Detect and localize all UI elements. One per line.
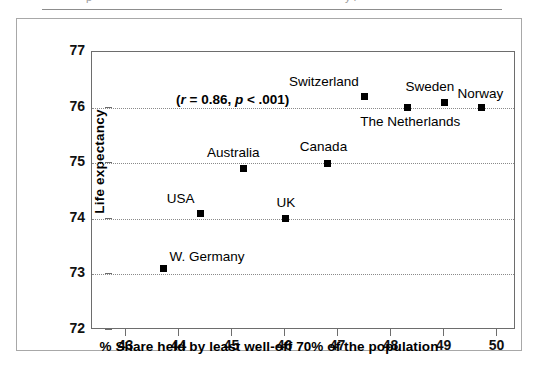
data-point-label: Sweden — [405, 79, 454, 94]
data-point-label: W. Germany — [170, 249, 245, 264]
data-point-marker — [324, 160, 331, 167]
data-point-label: UK — [276, 195, 295, 210]
x-tick-50 — [496, 329, 497, 336]
data-point-marker — [282, 215, 289, 222]
data-point-label: The Netherlands — [360, 114, 460, 129]
x-tick-44 — [178, 329, 179, 336]
data-point-marker — [404, 104, 411, 111]
x-tick-46 — [284, 329, 285, 336]
y-tick-label-77: 77 — [45, 42, 85, 58]
y-tick-label-75: 75 — [45, 153, 85, 169]
annotation-p-symbol: p — [235, 92, 243, 107]
figure-frame: Life expectancy 727374757677 W. GermanyU… — [16, 18, 522, 351]
data-point-marker — [441, 99, 448, 106]
x-tick-45 — [231, 329, 232, 336]
y-tick-label-72: 72 — [45, 320, 85, 336]
data-point-marker — [160, 265, 167, 272]
gridline-y-74 — [92, 219, 514, 220]
cropped-text-sliver: p y f — [0, 0, 541, 9]
data-point-label: USA — [167, 191, 195, 206]
text-fragment-left: p — [86, 0, 92, 3]
data-point-label: Canada — [300, 139, 347, 154]
y-tick-label-76: 76 — [45, 98, 85, 114]
data-point-label: Australia — [207, 145, 260, 160]
x-axis-title: % Share held by least well-off 70% of th… — [16, 339, 522, 354]
gridline-y-73 — [92, 274, 514, 275]
x-axis-ticks — [91, 329, 515, 337]
y-tick-label-73: 73 — [45, 264, 85, 280]
horizontal-rule — [42, 9, 502, 10]
data-point-label: Switzerland — [289, 74, 359, 89]
data-point-marker — [240, 165, 247, 172]
text-fragment-right: y f — [345, 0, 357, 3]
plot-area: W. GermanyUSAAustraliaUKCanadaSwitzerlan… — [91, 51, 515, 329]
x-tick-48 — [390, 329, 391, 336]
data-point-label: Norway — [458, 86, 504, 101]
gridline-y-75 — [92, 163, 514, 164]
x-tick-47 — [337, 329, 338, 336]
gridline-y-76 — [92, 108, 514, 109]
x-tick-43 — [125, 329, 126, 336]
annotation-p-value: < .001) — [243, 92, 289, 107]
data-point-marker — [197, 210, 204, 217]
y-axis-labels: 727374757677 — [37, 51, 85, 329]
data-point-marker — [478, 104, 485, 111]
x-tick-49 — [443, 329, 444, 336]
data-point-marker — [361, 93, 368, 100]
annotation-r-value: = 0.86, — [186, 92, 235, 107]
correlation-annotation: (r = 0.86, p < .001) — [176, 92, 289, 107]
y-tick-label-74: 74 — [45, 209, 85, 225]
